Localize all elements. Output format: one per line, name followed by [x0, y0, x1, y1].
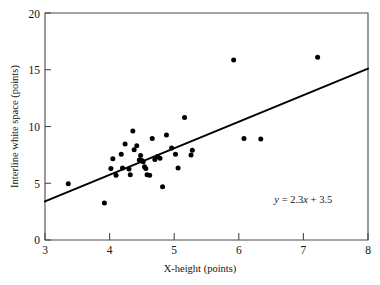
y-axis-title: Interline white space (points)	[9, 65, 21, 188]
data-point	[126, 167, 131, 172]
data-point	[160, 184, 165, 189]
y-tick-label-20: 20	[29, 8, 41, 20]
axes-frame	[45, 13, 368, 240]
data-point	[108, 166, 113, 171]
data-point	[141, 159, 146, 164]
data-point	[66, 181, 71, 186]
plot-canvas: 0 5 10 15 20 3 4 5 6 7 8 Interline white…	[0, 0, 380, 285]
data-point	[134, 143, 139, 148]
x-axis-tick-labels: 3 4 5 6 7 8	[42, 244, 371, 256]
data-point	[114, 173, 119, 178]
data-point	[176, 165, 181, 170]
y-tick-label-5: 5	[34, 178, 40, 190]
data-point	[119, 152, 124, 157]
data-point	[157, 156, 162, 161]
data-point	[173, 152, 178, 157]
data-point	[169, 146, 174, 151]
scatter-plot-figure: 0 5 10 15 20 3 4 5 6 7 8 Interline white…	[0, 0, 380, 285]
data-point	[231, 58, 236, 63]
data-point	[120, 165, 125, 170]
data-point	[147, 173, 152, 178]
x-axis-ticks	[45, 233, 368, 240]
x-tick-label-4: 4	[107, 244, 113, 256]
plot-frame	[45, 13, 368, 240]
x-tick-label-8: 8	[365, 244, 371, 256]
data-point	[110, 156, 115, 161]
data-point	[150, 136, 155, 141]
data-point	[102, 201, 107, 206]
data-point	[189, 152, 194, 157]
data-point	[241, 136, 246, 141]
data-point	[143, 166, 148, 171]
x-axis-title: X-height (points)	[164, 263, 237, 275]
data-point	[190, 148, 195, 153]
x-tick-label-3: 3	[42, 244, 48, 256]
y-tick-label-10: 10	[29, 121, 41, 133]
x-tick-label-6: 6	[236, 244, 242, 256]
regression-line	[45, 69, 368, 202]
x-tick-label-7: 7	[301, 244, 307, 256]
data-point	[315, 55, 320, 60]
regression-equation-label: y = 2.3x + 3.5	[273, 194, 332, 205]
y-tick-label-0: 0	[34, 234, 40, 246]
data-point	[164, 133, 169, 138]
data-point	[123, 142, 128, 147]
x-tick-label-5: 5	[171, 244, 177, 256]
data-points-layer	[66, 55, 320, 206]
data-point	[130, 129, 135, 134]
data-point	[182, 115, 187, 120]
data-point	[258, 136, 263, 141]
y-tick-label-15: 15	[29, 64, 41, 76]
data-point	[128, 172, 133, 177]
y-axis-tick-labels: 0 5 10 15 20	[29, 8, 41, 247]
data-point	[138, 153, 143, 158]
y-axis-ticks	[45, 13, 51, 240]
